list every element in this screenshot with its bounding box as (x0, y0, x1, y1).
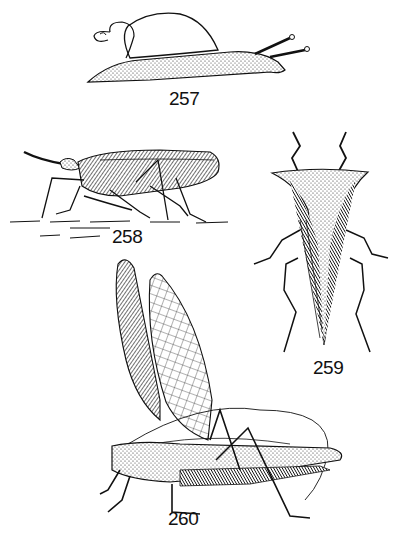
figure-259-treehopper (254, 132, 388, 352)
figure-label-257: 257 (169, 88, 199, 110)
figure-257-snail (88, 13, 310, 82)
figure-260-katydid (100, 260, 342, 518)
illustration-plate (0, 0, 410, 535)
figure-258-hopper (10, 150, 228, 238)
figure-label-259: 259 (313, 357, 343, 379)
figure-label-260: 260 (168, 508, 198, 530)
figure-label-258: 258 (112, 226, 142, 248)
